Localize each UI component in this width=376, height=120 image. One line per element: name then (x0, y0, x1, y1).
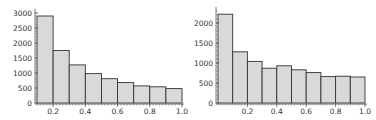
histogram-bar (166, 89, 182, 103)
histogram-bar (85, 74, 101, 103)
x-tick-label: 0.8 (330, 107, 342, 116)
x-tick-label: 1.0 (359, 107, 371, 116)
y-tick-label: 1500 (194, 39, 213, 48)
y-tick-label: 1000 (13, 69, 32, 78)
y-tick-label: 0 (27, 99, 32, 108)
histogram-bar (350, 77, 365, 103)
histogram-bar (53, 51, 69, 104)
y-tick-label: 500 (18, 84, 33, 93)
x-tick-label: 0.4 (79, 107, 91, 116)
histogram-bar (150, 87, 166, 103)
histogram-bar (218, 14, 233, 103)
histogram-bar (101, 79, 117, 103)
y-tick-label: 1500 (13, 54, 32, 63)
y-tick-label: 3000 (13, 9, 32, 18)
histogram-bar (134, 86, 150, 103)
histogram-bar (321, 77, 336, 103)
histogram-bar (277, 66, 292, 103)
x-tick-label: 0.8 (144, 107, 156, 116)
histogram-bar (37, 16, 53, 103)
y-tick-label: 2000 (13, 39, 32, 48)
histogram-bar (69, 65, 85, 103)
histogram-bar (336, 76, 351, 103)
histogram-bar (118, 83, 134, 103)
x-tick-label: 0.4 (271, 107, 283, 116)
histogram-bar (233, 52, 248, 103)
x-tick-label: 0.2 (241, 107, 253, 116)
y-tick-label: 2000 (194, 19, 213, 28)
histogram-bar (247, 61, 262, 103)
y-tick-label: 2500 (13, 24, 32, 33)
histogram-right: 05001000150020000.20.40.60.81.0 (188, 0, 376, 120)
x-tick-label: 1.0 (176, 107, 188, 116)
histogram-bar (262, 68, 277, 103)
y-tick-label: 1000 (194, 59, 213, 68)
x-tick-label: 0.6 (300, 107, 312, 116)
x-tick-label: 0.2 (47, 107, 59, 116)
y-tick-label: 500 (199, 79, 214, 88)
histogram-left-plot: 0500100015002000250030000.20.40.60.81.0 (0, 0, 188, 120)
histogram-right-plot: 05001000150020000.20.40.60.81.0 (188, 0, 376, 120)
y-tick-label: 0 (208, 99, 213, 108)
histogram-bar (292, 70, 307, 103)
x-tick-label: 0.6 (112, 107, 124, 116)
histogram-left: 0500100015002000250030000.20.40.60.81.0 (0, 0, 188, 120)
histogram-bar (306, 73, 321, 103)
